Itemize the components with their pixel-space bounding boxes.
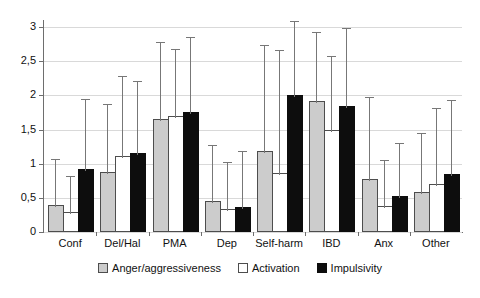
bar-group [358,27,410,232]
bar-del-hal-1 [115,156,131,232]
y-axis-tick-label: 0 [6,226,36,237]
error-bar-line [160,42,161,121]
y-axis-tick-label: 2,5 [6,55,36,66]
error-bar-line [331,56,332,133]
x-axis-tick-mark [358,232,359,236]
error-bar-line [451,100,452,176]
legend-item-impulsivity: Impulsivity [317,262,382,274]
error-bar-line [384,160,385,209]
error-bar-cap [118,76,127,77]
x-axis-tick-label-anx: Anx [358,237,410,250]
bar-pma-0 [153,119,169,232]
bar-conf-1 [63,212,79,232]
legend-label: Activation [252,262,300,274]
error-bar-cap [290,21,299,22]
chart-legend: Anger/aggressivenessActivationImpulsivit… [0,262,480,274]
bar-other-1 [429,184,445,232]
x-axis-tick-label-del-hal: Del/Hal [96,237,148,250]
legend-swatch-icon [238,263,248,273]
error-bar-line [436,108,437,187]
x-axis-tick-label-conf: Conf [44,237,96,250]
error-bar-line [70,176,71,214]
x-axis-tick-label-other: Other [410,237,462,250]
error-bar-cap [66,176,75,177]
bar-group [201,27,253,232]
error-bar-cap [171,49,180,50]
error-bar-cap [312,32,321,33]
error-bar-line [346,28,347,107]
bar-group [44,27,96,232]
x-axis-tick-mark [410,232,411,236]
error-bar-cap [447,100,456,101]
y-axis-tick-label: 3 [6,21,36,32]
bar-ibd-1 [324,130,340,232]
error-bar-cap [81,99,90,100]
bar-anx-1 [377,206,393,232]
error-bar-cap [417,133,426,134]
bar-pma-2 [183,112,199,232]
error-bar-line [421,133,422,195]
bar-chart: 00,511,522,53 ConfDel/HalPMADepSelf-harm… [0,0,480,298]
bar-ibd-0 [309,101,325,232]
error-bar-line [316,32,317,102]
error-bar-cap [51,159,60,160]
bar-group [410,27,462,232]
error-bar-line [264,45,265,153]
x-axis-tick-mark [201,232,202,236]
bar-pma-1 [168,116,184,232]
error-bar-cap [275,50,284,51]
error-bar-cap [238,151,247,152]
error-bar-cap [342,28,351,29]
error-bar-cap [260,45,269,46]
legend-swatch-icon [317,263,327,273]
error-bar-cap [380,160,389,161]
bar-ibd-2 [339,106,355,232]
error-bar-line [107,104,108,174]
bar-other-2 [444,174,460,232]
bar-self-harm-2 [287,95,303,232]
x-axis-tick-label-self-harm: Self-harm [253,237,305,250]
bar-other-0 [414,192,430,232]
error-bar-cap [156,42,165,43]
error-bar-cap [186,37,195,38]
error-bar-line [190,37,191,114]
error-bar-line [137,81,138,155]
bar-del-hal-0 [100,172,116,232]
bar-conf-2 [78,169,94,233]
y-axis-tick-label: 1 [6,158,36,169]
x-axis-tick-mark [253,232,254,236]
bar-anx-0 [362,179,378,232]
bar-dep-2 [235,207,251,232]
y-axis-tick-label: 0,5 [6,192,36,203]
bar-dep-0 [205,201,221,232]
error-bar-cap [103,104,112,105]
error-bar-line [55,159,56,207]
x-axis-tick-label-dep: Dep [201,237,253,250]
error-bar-cap [327,56,336,57]
bar-self-harm-1 [272,173,288,232]
error-bar-line [122,76,123,157]
error-bar-line [212,145,213,202]
bar-anx-2 [392,196,408,232]
legend-label: Anger/aggressiveness [112,262,221,274]
error-bar-line [294,21,295,97]
error-bar-line [369,97,370,182]
bar-group [253,27,305,232]
error-bar-cap [365,97,374,98]
legend-item-activation: Activation [238,262,300,274]
bar-group [96,27,148,232]
bar-self-harm-0 [257,151,273,232]
error-bar-line [242,151,243,209]
error-bar-cap [208,145,217,146]
error-bar-cap [223,162,232,163]
bar-conf-0 [48,205,64,232]
bar-group [149,27,201,232]
x-axis-tick-mark [305,232,306,236]
error-bar-line [227,162,228,211]
x-axis-tick-label-ibd: IBD [305,237,357,250]
bar-del-hal-2 [130,153,146,232]
bar-dep-1 [220,209,236,232]
error-bar-line [175,49,176,118]
y-axis-tick-label: 1,5 [6,124,36,135]
legend-swatch-icon [98,263,108,273]
